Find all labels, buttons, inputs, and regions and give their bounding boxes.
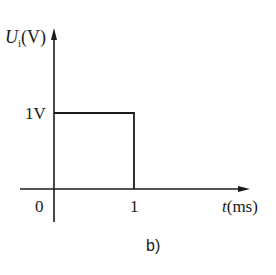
pulse-signal-line bbox=[54, 113, 134, 189]
y-tick-1v: 1V bbox=[25, 104, 47, 123]
x-axis-label: t(ms) bbox=[222, 197, 258, 216]
figure-caption: b) bbox=[146, 237, 160, 254]
x-tick-0: 0 bbox=[35, 197, 44, 216]
pulse-chart: Ui(V) 1V 0 1 t(ms) b) bbox=[0, 0, 276, 275]
x-tick-1: 1 bbox=[130, 197, 139, 216]
x-axis-arrow-icon bbox=[238, 186, 250, 192]
y-axis-arrow-icon bbox=[51, 28, 57, 40]
y-axis-label: Ui(V) bbox=[5, 27, 46, 49]
